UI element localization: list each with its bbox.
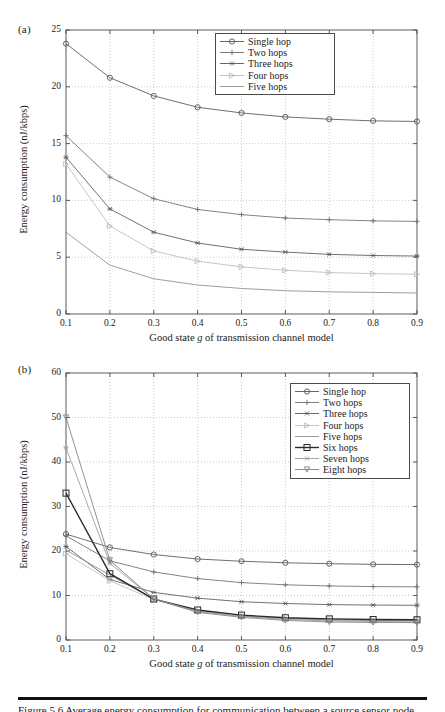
y-tick-label: 20 [38,545,61,555]
x-tick-label: 0.8 [359,318,387,328]
x-tick-label: 0.4 [184,318,212,328]
legend-item: Five hops [294,431,405,442]
x-tick-label: 0.5 [228,318,256,328]
x-tick-label: 0.2 [96,644,124,654]
y-tick-label: 60 [38,367,61,377]
y-tick-label: 0 [38,634,61,644]
legend-label: Two hops [248,47,287,58]
legend-label: Single hop [323,386,366,397]
legend-label: Five hops [323,431,362,442]
panel-b-y-axis-title: Energy consumption (nJ/kbps) [18,429,29,579]
y-tick-label: 0 [38,308,61,318]
legend-marker-plus-icon [219,47,245,58]
x-tick-label: 0.7 [315,644,343,654]
panel-a-legend: Single hopTwo hopsThree hopsFour hopsFiv… [215,33,335,95]
panel-b-x-axis-title: Good state g of transmission channel mod… [66,658,417,669]
y-tick-label: 25 [38,24,61,34]
x-tick-label: 0.9 [403,644,431,654]
figure-container: (a) Energy consumption (nJ/kbps) Good st… [0,0,445,712]
x-tick-label: 0.7 [315,318,343,328]
legend-label: Four hops [248,70,288,81]
x-tick-label: 0.1 [52,318,80,328]
legend-marker-none-icon [219,81,245,92]
legend-item: Four hops [294,420,405,431]
legend-label: Eight hops [323,464,366,475]
y-tick-label: 40 [38,456,61,466]
legend-label: Single hop [248,36,291,47]
y-tick-label: 50 [38,412,61,422]
legend-marker-square-icon [294,442,320,453]
panel-b-legend: Single hopTwo hopsThree hopsFour hopsFiv… [290,383,410,479]
y-tick-label: 20 [38,81,61,91]
panel-a-x-axis-title: Good state g of transmission channel mod… [66,332,417,343]
x-title-prefix: Good state [149,332,197,343]
panel-a-label: (a) [18,23,31,35]
legend-item: Two hops [294,397,405,408]
x-tick-label: 0.6 [271,318,299,328]
legend-item: Two hops [219,47,330,58]
legend-label: Two hops [323,397,362,408]
x-tick-label: 0.2 [96,318,124,328]
x-title-prefix: Good state [149,658,197,669]
legend-marker-asterisk-icon [294,453,320,464]
x-tick-label: 0.3 [140,644,168,654]
legend-marker-none-icon [294,431,320,442]
legend-marker-plus-icon [294,397,320,408]
y-tick-label: 10 [38,194,61,204]
x-tick-label: 0.3 [140,318,168,328]
legend-marker-triangle-right-icon [294,420,320,431]
figure-caption: Figure 5.6 Average energy consumption fo… [18,704,427,712]
chart-panel-a: (a) Energy consumption (nJ/kbps) Good st… [0,0,445,345]
legend-item: Single hop [294,386,405,397]
x-tick-label: 0.4 [184,644,212,654]
legend-label: Four hops [323,420,363,431]
legend-marker-asterisk-icon [294,408,320,419]
legend-label: Six hops [323,442,358,453]
legend-label: Five hops [248,81,287,92]
legend-item: Three hops [294,408,405,419]
legend-marker-triangle-right-icon [219,70,245,81]
chart-panel-b: (b) Energy consumption (nJ/kbps) Good st… [0,345,445,685]
legend-marker-triangle-down-icon [294,464,320,475]
legend-marker-circle-icon [294,386,320,397]
y-tick-label: 5 [38,251,61,261]
legend-item: Six hops [294,442,405,453]
x-tick-label: 0.5 [228,644,256,654]
y-tick-label: 30 [38,501,61,511]
y-tick-label: 15 [38,138,61,148]
panel-a-y-axis-title: Energy consumption (nJ/kbps) [18,95,29,245]
legend-item: Eight hops [294,464,405,475]
legend-item: Three hops [219,58,330,69]
caption-divider-rule [18,697,427,700]
legend-item: Five hops [219,81,330,92]
x-title-suffix: of transmission channel model [202,658,333,669]
legend-marker-circle-icon [219,36,245,47]
legend-label: Three hops [248,58,293,69]
x-tick-label: 0.1 [52,644,80,654]
x-tick-label: 0.8 [359,644,387,654]
legend-marker-asterisk-icon [219,58,245,69]
x-tick-label: 0.6 [271,644,299,654]
y-tick-label: 10 [38,590,61,600]
legend-item: Seven hops [294,453,405,464]
legend-item: Four hops [219,70,330,81]
legend-item: Single hop [219,36,330,47]
panel-b-label: (b) [18,363,31,375]
x-tick-label: 0.9 [403,318,431,328]
legend-label: Three hops [323,408,368,419]
legend-label: Seven hops [323,453,369,464]
x-title-suffix: of transmission channel model [202,332,333,343]
